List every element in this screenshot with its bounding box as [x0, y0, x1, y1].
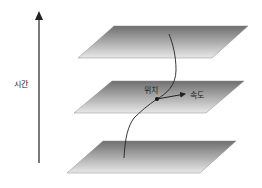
bottom-plane: [67, 141, 236, 173]
velocity-label: 속도: [190, 91, 204, 100]
position-label: 위치: [144, 86, 158, 95]
top-plane: [78, 26, 248, 58]
time-axis: 시간: [14, 11, 43, 163]
spacetime-diagram: 시간 위치 속도: [0, 0, 262, 188]
time-axis-label: 시간: [14, 79, 29, 89]
time-arrow-icon: [35, 11, 43, 20]
middle-plane: [74, 81, 244, 113]
